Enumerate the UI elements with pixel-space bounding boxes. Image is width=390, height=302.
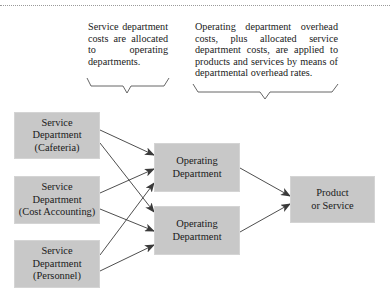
brace-overhead-note: [193, 84, 338, 99]
arrow-cafeteria-to-op2: [100, 143, 154, 212]
node-line: Service: [32, 245, 81, 257]
node-line: (Personnel): [32, 270, 81, 282]
node-line: Service: [19, 181, 95, 193]
node-product-or-service: Product or Service: [290, 176, 375, 223]
arrow-personnel-to-op2: [100, 245, 154, 271]
node-line: Department: [172, 168, 221, 180]
node-line: Department: [172, 231, 221, 243]
node-service-cafeteria: Service Department (Cafeteria): [14, 112, 100, 159]
node-service-personnel: Service Department (Personnel): [14, 240, 100, 288]
node-line: Department: [32, 258, 81, 270]
node-line: Operating: [172, 218, 221, 230]
arrow-op1-to-product: [240, 168, 290, 196]
node-service-cost-accounting: Service Department (Cost Accounting): [14, 176, 100, 224]
node-line: (Cost Accounting): [19, 206, 95, 218]
header-dotted-rule: [0, 5, 390, 6]
node-line: Product: [311, 187, 353, 199]
node-line: or Service: [311, 200, 353, 212]
node-line: Operating: [172, 155, 221, 167]
service-allocation-note: Service department costs are allocated t…: [88, 21, 168, 67]
arrow-personnel-to-op1: [100, 183, 154, 255]
node-line: Department: [32, 129, 81, 141]
arrow-costacct-to-op1: [100, 169, 154, 193]
brace-service-note: [87, 78, 169, 93]
node-line: Service: [32, 117, 81, 129]
overhead-application-note: Operating department overhead costs, plu…: [195, 21, 338, 79]
arrow-cafeteria-to-op1: [100, 130, 154, 155]
arrow-op2-to-product: [240, 204, 290, 232]
node-line: Department: [19, 194, 95, 206]
node-operating-2: Operating Department: [154, 206, 240, 255]
node-operating-1: Operating Department: [154, 143, 240, 192]
node-line: (Cafeteria): [32, 142, 81, 154]
arrow-costacct-to-op2: [100, 209, 154, 231]
